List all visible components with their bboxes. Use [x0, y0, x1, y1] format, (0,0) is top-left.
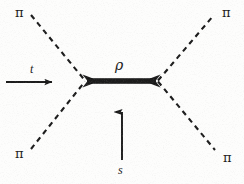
pion-line-upper-left — [31, 15, 85, 81]
pion-label-lower-left: π — [15, 147, 24, 160]
diagram-canvas — [0, 0, 244, 184]
pion-label-upper-right: π — [222, 6, 231, 19]
feynman-diagram-figure: π π π π ρ t s — [0, 0, 244, 184]
pion-label-lower-right: π — [223, 151, 232, 164]
pion-line-lower-left — [31, 82, 85, 150]
rho-propagator-line — [87, 78, 156, 84]
pion-line-upper-right — [158, 15, 214, 81]
mandelstam-t-label: t — [30, 63, 33, 75]
pion-line-lower-right — [158, 82, 215, 151]
rho-propagator-label: ρ — [115, 58, 123, 72]
mandelstam-s-label: s — [118, 164, 123, 176]
pion-label-upper-left: π — [15, 6, 24, 19]
